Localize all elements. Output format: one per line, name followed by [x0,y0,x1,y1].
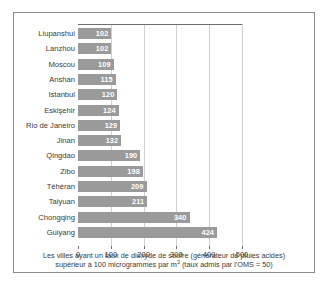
bar-value-label: 115 [100,74,112,85]
bar-value-label: 109 [98,59,111,70]
chart-caption: Les villes ayant un taux de dioxyde de s… [22,251,306,269]
category-label: Qingdao [46,150,75,161]
bar-row: Rio de Janeiro129 [78,120,120,131]
bar-row: Taiyuan211 [78,196,147,207]
bar-row: Guiyang424 [78,227,217,238]
gridline-500 [242,24,243,246]
bar-row: Zibo198 [78,166,143,177]
caption-line-2-tail: (taux admis par l'OMS = 50) [180,260,273,269]
category-label: Rio de Janeiro [26,120,75,131]
category-label: Taiyuan [49,196,75,207]
caption-line-1: Les villes ayant un taux de dioxyde de s… [22,251,306,260]
category-label: Zibo [60,166,75,177]
bar-value-label: 190 [125,150,138,161]
bar-row: Qingdao190 [78,150,140,161]
bar-value-label: 102 [96,28,109,39]
bar: 198 [78,166,143,177]
x-tick-mark-400 [209,246,210,249]
bar-value-label: 129 [105,120,118,131]
bar: 115 [78,74,116,85]
bar: 102 [78,28,111,39]
bar-value-label: 209 [131,181,144,192]
bar-value-label: 120 [102,89,115,100]
category-label: Istanbul [48,89,75,100]
bar: 129 [78,120,120,131]
bar: 109 [78,59,114,70]
category-label: Jinan [57,135,75,146]
caption-line-2-text: supérieur à 100 microgrammes par m [55,260,177,269]
x-tick-mark-100 [111,246,112,249]
x-tick-mark-300 [176,246,177,249]
bar-row: Lanzhou102 [78,43,111,54]
bar: 340 [78,212,190,223]
bar-value-label: 198 [127,166,140,177]
category-label: Liupanshui [38,28,75,39]
bar-row: Liupanshui102 [78,28,111,39]
bar-row: Jinan132 [78,135,121,146]
category-label: Eskişehir [44,105,75,116]
x-tick-mark-500 [242,246,243,249]
bar-value-label: 211 [132,196,144,207]
category-label: Lanzhou [46,43,75,54]
bar: 102 [78,43,111,54]
x-tick-mark-0 [78,246,79,249]
category-label: Chongqing [38,212,75,223]
bar-row: Istanbul120 [78,89,117,100]
category-label: Moscou [48,59,75,70]
chart-figure: Liupanshui102Lanzhou102Moscou109Anshan11… [13,12,315,273]
bar-row: Téhéran209 [78,181,147,192]
bar-row: Eskişehir124 [78,105,119,116]
x-axis-line [78,24,242,25]
bar: 124 [78,105,119,116]
bar-row: Chongqing340 [78,212,190,223]
category-label: Anshan [49,74,75,85]
caption-line-2: supérieur à 100 microgrammes par m3 (tau… [22,260,306,269]
plot-area: Liupanshui102Lanzhou102Moscou109Anshan11… [78,24,242,246]
bar: 424 [78,227,217,238]
category-label: Guiyang [47,227,75,238]
bar: 190 [78,150,140,161]
bar-value-label: 340 [174,212,187,223]
x-tick-mark-200 [144,246,145,249]
bar-row: Anshan115 [78,74,116,85]
category-label: Téhéran [47,181,75,192]
bar: 132 [78,135,121,146]
bar: 211 [78,196,147,207]
bar-value-label: 124 [103,105,116,116]
bar: 120 [78,89,117,100]
bar: 209 [78,181,147,192]
bar-value-label: 132 [106,135,119,146]
bar-row: Moscou109 [78,59,114,70]
bar-value-label: 424 [201,227,214,238]
bar-value-label: 102 [96,43,109,54]
gridline-400 [209,24,210,246]
